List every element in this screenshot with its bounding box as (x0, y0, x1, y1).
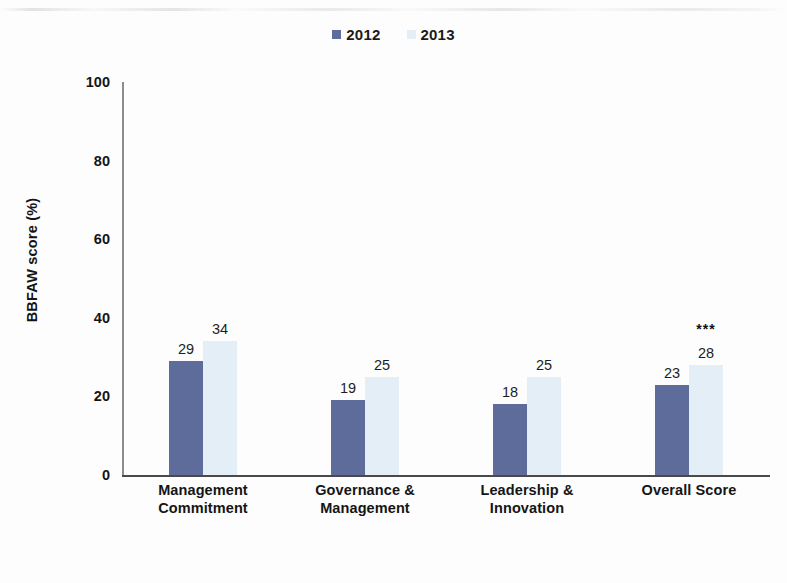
bar-wrap-2013: 34 (203, 82, 237, 475)
bar-2012[interactable] (331, 400, 365, 475)
category-label-line2: Commitment (113, 500, 293, 518)
bar-group-governance-management: 19 25 Governance & Management (284, 82, 446, 475)
y-axis-title: BBFAW score (%) (24, 180, 40, 340)
category-label-line1: Overall Score (599, 482, 779, 500)
category-label-governance-management: Governance & Management (275, 482, 455, 517)
legend-item-2013: 2013 (407, 27, 455, 42)
bar-value-2012: 19 (340, 380, 356, 396)
category-label-overall-score: Overall Score (599, 482, 779, 500)
legend-label-2012: 2012 (346, 27, 380, 42)
scan-artifact (0, 8, 787, 11)
y-tick-label-100: 100 (86, 74, 110, 90)
x-axis-line (122, 475, 770, 477)
bar-chart-figure: 2012 2013 BBFAW score (%) 100 80 60 40 2… (0, 0, 787, 583)
bar-wrap-2012: 18 (493, 82, 527, 475)
bar-value-2012: 23 (664, 365, 680, 381)
bar-2013[interactable] (365, 377, 399, 475)
y-tick-label-0: 0 (102, 467, 110, 483)
bar-wrap-2013: *** 28 (689, 82, 723, 475)
bar-significance-2013: *** (696, 321, 715, 337)
y-tick-label-60: 60 (94, 231, 110, 247)
category-label-line1: Leadership & (437, 482, 617, 500)
chart-legend: 2012 2013 (0, 27, 787, 42)
y-tick-label-40: 40 (94, 310, 110, 326)
bar-wrap-2012: 29 (169, 82, 203, 475)
bar-wrap-2013: 25 (365, 82, 399, 475)
bar-2012[interactable] (169, 361, 203, 475)
bar-value-2012: 18 (502, 384, 518, 400)
bar-value-2013: 28 (698, 345, 714, 361)
legend-label-2013: 2013 (421, 27, 455, 42)
category-label-line1: Management (113, 482, 293, 500)
bar-wrap-2012: 23 (655, 82, 689, 475)
bar-wrap-2013: 25 (527, 82, 561, 475)
category-label-leadership-innovation: Leadership & Innovation (437, 482, 617, 517)
bar-value-2013: 25 (536, 357, 552, 373)
bar-2013[interactable] (527, 377, 561, 475)
bar-2013[interactable] (203, 341, 237, 475)
bar-2013[interactable] (689, 365, 723, 475)
bar-value-2012: 29 (178, 341, 194, 357)
bar-group-overall-score: 23 *** 28 Overall Score (608, 82, 770, 475)
category-label-line1: Governance & (275, 482, 455, 500)
plot-area: 100 80 60 40 20 0 29 34 Management Commi… (122, 82, 770, 475)
category-label-management-commitment: Management Commitment (113, 482, 293, 517)
bar-group-management-commitment: 29 34 Management Commitment (122, 82, 284, 475)
bar-value-2013: 34 (212, 321, 228, 337)
legend-swatch-2013-icon (407, 30, 416, 39)
y-tick-label-80: 80 (94, 153, 110, 169)
category-label-line2: Management (275, 500, 455, 518)
bar-2012[interactable] (493, 404, 527, 475)
y-tick-label-20: 20 (94, 388, 110, 404)
bar-2012[interactable] (655, 385, 689, 475)
legend-item-2012: 2012 (332, 27, 380, 42)
bar-group-leadership-innovation: 18 25 Leadership & Innovation (446, 82, 608, 475)
bar-wrap-2012: 19 (331, 82, 365, 475)
legend-swatch-2012-icon (332, 30, 341, 39)
bar-value-2013: 25 (374, 357, 390, 373)
category-label-line2: Innovation (437, 500, 617, 518)
